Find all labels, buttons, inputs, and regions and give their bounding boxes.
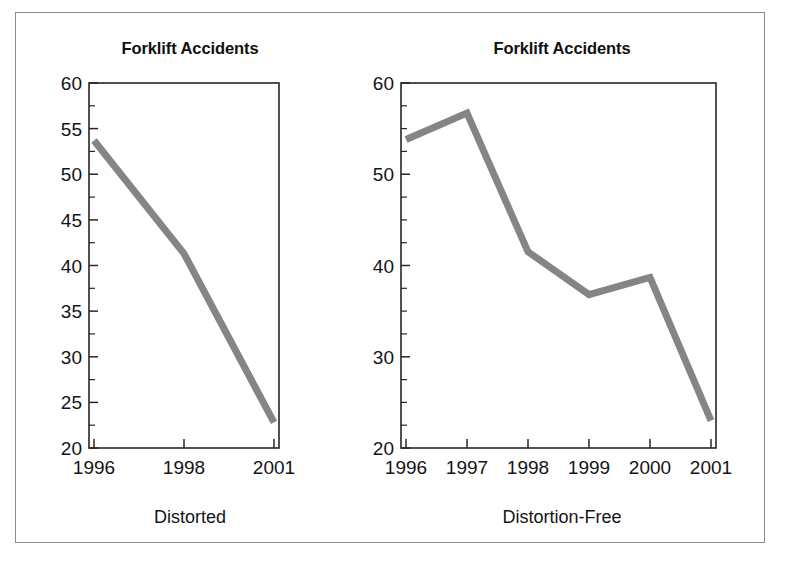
y-tick-label: 45	[61, 210, 82, 231]
y-tick-label: 20	[61, 438, 82, 459]
x-tick-label: 1997	[446, 457, 488, 478]
y-tick-label: 30	[373, 347, 394, 368]
x-tick-label: 1998	[507, 457, 549, 478]
y-tick-label: 30	[61, 347, 82, 368]
x-tick-label: 1996	[385, 457, 427, 478]
y-tick-label: 40	[373, 256, 394, 277]
plot-frame-distorted	[89, 83, 279, 448]
x-tick-label: 2000	[629, 457, 671, 478]
y-axis-ticks-distorted	[89, 83, 98, 448]
chart-panel-distorted: Forklift Accidents	[16, 13, 346, 542]
y-tick-label: 25	[61, 392, 82, 413]
plot-area-distorted: 60 55 50 45 40 35 30 25 20 1996 1998 200…	[16, 13, 346, 544]
x-tick-label: 1999	[568, 457, 610, 478]
x-tick-label: 2001	[690, 457, 732, 478]
y-tick-label: 60	[373, 73, 394, 94]
y-tick-label: 20	[373, 438, 394, 459]
data-line-distortion-free	[406, 113, 711, 421]
plot-area-distortion-free: 60 50 40 30 20 1996 1997 1998 1999 2000 …	[346, 13, 766, 544]
x-tick-label: 2001	[253, 457, 295, 478]
x-axis-ticks-distorted	[94, 439, 274, 448]
figure-frame: Forklift Accidents	[15, 12, 765, 543]
y-tick-label: 50	[61, 164, 82, 185]
y-tick-label: 60	[61, 73, 82, 94]
x-axis-ticks-distortion-free	[406, 439, 711, 448]
y-tick-label: 35	[61, 301, 82, 322]
x-tick-label: 1998	[163, 457, 205, 478]
chart-caption-distortion-free: Distortion-Free	[346, 507, 766, 528]
data-line-distorted	[94, 140, 274, 422]
chart-panel-distortion-free: Forklift Accidents	[346, 13, 766, 542]
y-tick-label: 50	[373, 164, 394, 185]
y-tick-label: 40	[61, 256, 82, 277]
chart-caption-distorted: Distorted	[16, 507, 346, 528]
plot-frame-distortion-free	[401, 83, 716, 448]
x-tick-label: 1996	[73, 457, 115, 478]
y-tick-label: 55	[61, 119, 82, 140]
